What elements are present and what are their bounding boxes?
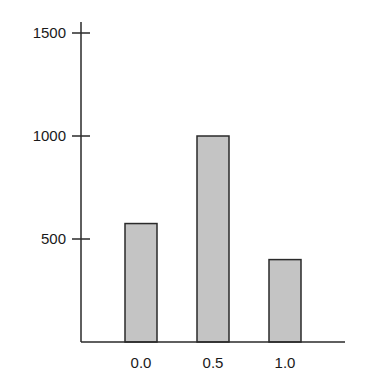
bar-0.0 bbox=[125, 224, 157, 342]
y-tick-label: 1000 bbox=[33, 127, 66, 144]
bar-1.0 bbox=[269, 260, 301, 342]
bars-group bbox=[125, 136, 301, 342]
x-tick-label: 0.0 bbox=[131, 354, 152, 371]
x-tick-label: 0.5 bbox=[203, 354, 224, 371]
y-tick-label: 500 bbox=[41, 230, 66, 247]
x-tick-label: 1.0 bbox=[275, 354, 296, 371]
x-ticks: 0.00.51.0 bbox=[131, 354, 296, 371]
y-tick-label: 1500 bbox=[33, 24, 66, 41]
bar-0.5 bbox=[197, 136, 229, 342]
bar-chart: 50010001500 0.00.51.0 bbox=[0, 0, 375, 389]
